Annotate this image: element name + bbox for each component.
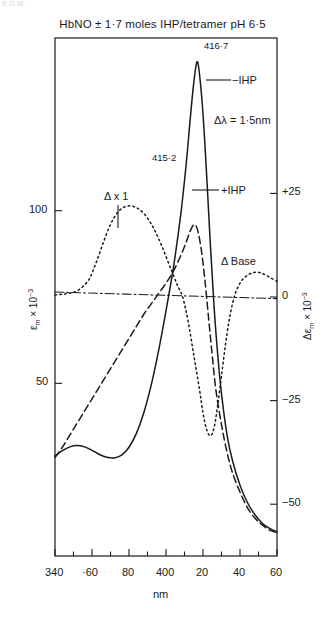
x-axis-label: nm [153, 588, 168, 600]
curve-series-3 [55, 292, 277, 299]
y-right-tick-label-25: +25 [282, 185, 301, 197]
delta-lambda-annotation: Δλ = 1·5nm [214, 114, 271, 126]
series-label-minus-ihp: −IHP [232, 74, 257, 86]
y-axis-left-label: εm × 10−3 [26, 289, 42, 330]
y-axis-right-label-text: Δεm × 10−3 [302, 292, 313, 340]
curves-layer [55, 62, 277, 533]
y-right-tick-label-0: 0 [282, 289, 288, 301]
curve-series-2 [55, 206, 277, 436]
peak-label-plus-ihp: 415·2 [152, 152, 176, 163]
curve-series-1 [55, 224, 277, 532]
series-label-plus-ihp: +IHP [221, 184, 246, 196]
delta-multiplier-annotation: Δ x 1 [104, 190, 128, 202]
y-right-tick-label--50: −50 [282, 496, 301, 508]
y-axis-left-label-text: εm × 10−3 [28, 289, 39, 330]
x-tick-label-440: 40 [233, 566, 245, 578]
y-left-tick-label-50: 50 [36, 375, 48, 387]
y-left-tick-label-100: 100 [29, 203, 47, 215]
x-tick-label-460: 60 [270, 566, 282, 578]
x-tick-label-420: 20 [196, 566, 208, 578]
figure-root: S.D.M. HbNO ± 1·7 moles IHP/tetramer pH … [0, 0, 325, 624]
x-tick-label-380: 80 [122, 566, 134, 578]
spectrum-plot [0, 0, 325, 624]
x-tick-label-400: 400 [156, 566, 174, 578]
x-tick-label-340: 340 [45, 566, 63, 578]
peak-label-minus-ihp: 416·7 [204, 40, 228, 51]
y-axis-right-label: Δεm × 10−3 [300, 292, 316, 340]
x-tick-label-360: ·60 [82, 566, 98, 578]
curve-series-0 [55, 62, 277, 532]
y-right-tick-label--25: −25 [282, 393, 301, 405]
delta-base-annotation: Δ Base [221, 255, 256, 267]
